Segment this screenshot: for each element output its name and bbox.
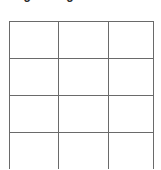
table-cell-text xyxy=(109,59,153,64)
table-cell-text xyxy=(59,96,108,101)
table-cell-text xyxy=(59,22,108,27)
table-row xyxy=(10,133,154,170)
table-cell-text xyxy=(109,22,153,27)
page-fragment: Organizing xyxy=(0,0,161,169)
table-cell-text xyxy=(109,133,153,138)
table-row xyxy=(10,59,154,96)
table-cell-text xyxy=(10,133,58,138)
table-cell[interactable] xyxy=(59,22,109,59)
table-cell[interactable] xyxy=(10,133,59,170)
table-cell[interactable] xyxy=(109,133,154,170)
table-cell-text xyxy=(59,133,108,138)
table-cell[interactable] xyxy=(109,59,154,96)
table-row xyxy=(10,96,154,133)
table-container xyxy=(9,21,153,169)
table-cell-text xyxy=(109,96,153,101)
empty-grid-table xyxy=(9,21,154,169)
page-title: Organizing xyxy=(9,0,161,3)
table-cell-text xyxy=(10,22,58,27)
table-cell[interactable] xyxy=(109,96,154,133)
table-cell[interactable] xyxy=(59,59,109,96)
table-cell[interactable] xyxy=(10,59,59,96)
table-cell-text xyxy=(10,59,58,64)
table-cell[interactable] xyxy=(10,96,59,133)
table-row xyxy=(10,22,154,59)
table-cell[interactable] xyxy=(10,22,59,59)
table-cell[interactable] xyxy=(109,22,154,59)
table-cell-text xyxy=(10,96,58,101)
table-cell[interactable] xyxy=(59,96,109,133)
table-body xyxy=(10,22,154,170)
table-cell-text xyxy=(59,59,108,64)
table-cell[interactable] xyxy=(59,133,109,170)
